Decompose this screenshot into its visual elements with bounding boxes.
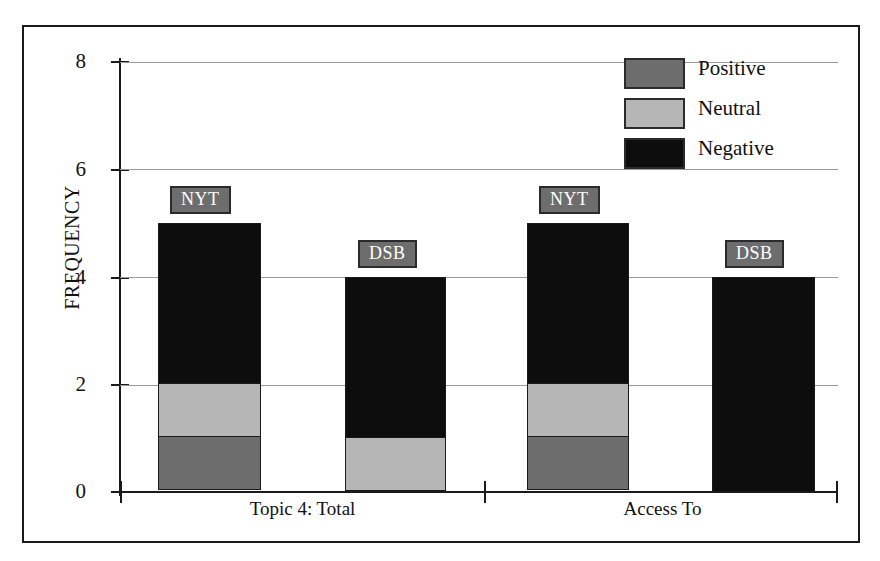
- bar-segment-neutral: [527, 383, 629, 437]
- legend-swatch-positive: [624, 58, 685, 89]
- bar-segment-neutral: [345, 437, 446, 491]
- bar-segment-neutral: [158, 383, 261, 437]
- legend-swatch-neutral: [624, 98, 685, 129]
- bar-nyt-access-to: [527, 223, 629, 492]
- legend-swatch-negative: [624, 138, 685, 169]
- y-tick-label-4: 4: [60, 267, 86, 288]
- legend-label-positive: Positive: [698, 56, 766, 81]
- series-badge-dsb-left: DSB: [358, 240, 417, 268]
- y-tick-label-0: 0: [60, 481, 86, 502]
- bar-nyt-topic4-total: [158, 223, 261, 492]
- bar-segment-negative: [527, 223, 629, 384]
- gridline-6: [120, 169, 838, 170]
- y-tick-label-6: 6: [60, 159, 86, 180]
- x-tick-end: [836, 481, 838, 503]
- bar-segment-negative: [345, 277, 446, 438]
- bar-dsb-access-to: [712, 277, 815, 492]
- bar-segment-negative: [158, 223, 261, 384]
- series-badge-nyt-right: NYT: [539, 186, 600, 214]
- y-tick-label-8: 8: [60, 51, 86, 72]
- y-tick-label-2: 2: [60, 374, 86, 395]
- plot-area: [120, 62, 838, 492]
- bar-segment-positive: [158, 436, 261, 490]
- chart-figure: FREQUENCY 0 2 4 6 8: [0, 0, 880, 561]
- legend-label-negative: Negative: [698, 136, 774, 161]
- series-badge-dsb-right: DSB: [725, 240, 784, 268]
- x-category-label-access-to: Access To: [560, 498, 765, 520]
- bar-segment-negative: [712, 277, 815, 492]
- x-category-label-topic4: Topic 4: Total: [200, 498, 405, 520]
- series-badge-nyt-left: NYT: [170, 186, 231, 214]
- x-tick-start: [120, 481, 122, 503]
- bar-dsb-topic4-total: [345, 277, 446, 492]
- y-axis-label: FREQUENCY: [61, 168, 84, 328]
- legend-label-neutral: Neutral: [698, 96, 761, 121]
- x-tick-separator: [484, 481, 486, 503]
- bar-segment-positive: [527, 436, 629, 490]
